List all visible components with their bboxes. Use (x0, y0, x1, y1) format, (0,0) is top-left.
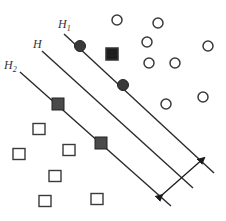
hollow-circle-point (153, 18, 163, 28)
svm-diagram: H1 H H2 (0, 0, 226, 221)
hollow-square-point (13, 149, 25, 160)
hyperplane-h1 (64, 34, 214, 173)
hollow-square-point (39, 196, 51, 207)
hollow-square-point (63, 145, 75, 156)
label-h2: H2 (3, 58, 17, 74)
hollow-circle-point (198, 92, 208, 102)
hollow-circle-point (142, 37, 152, 47)
margin-arrow-icon (162, 158, 204, 195)
hyperplane-h (42, 51, 193, 188)
hollow-circle-point (170, 58, 180, 68)
data-points (13, 15, 213, 207)
support-vector-circle (75, 41, 86, 52)
support-vector-square (52, 98, 64, 110)
hollow-square-point (33, 124, 45, 135)
support-vector-circle (118, 80, 129, 91)
hollow-square-point (49, 171, 61, 182)
label-h1: H1 (57, 17, 71, 33)
label-h: H (32, 37, 43, 51)
hollow-circle-point (203, 41, 213, 51)
margin-arrow (162, 158, 204, 195)
hollow-square-point (91, 194, 103, 205)
hollow-circle-point (161, 99, 171, 109)
hollow-circle-point (144, 58, 154, 68)
misclassified-square-point (106, 48, 118, 60)
hollow-circle-point (112, 15, 122, 25)
support-vector-square (95, 137, 107, 149)
